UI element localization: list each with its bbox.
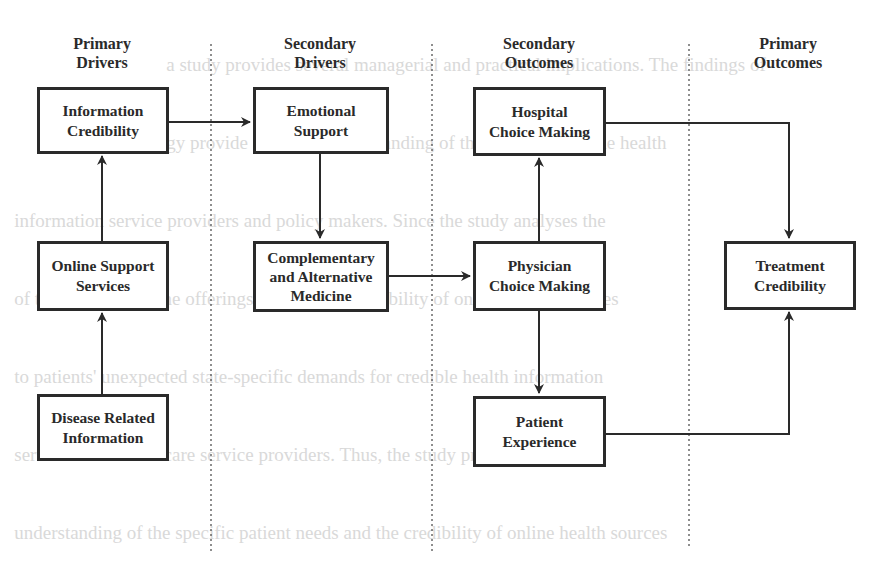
node-label: Information Credibility bbox=[63, 101, 144, 141]
header-primary-outcomes: Primary Outcomes bbox=[718, 34, 858, 72]
node-label: Online Support Services bbox=[52, 256, 155, 296]
node-physician-choice-making: Physician Choice Making bbox=[473, 241, 606, 311]
header-secondary-drivers: Secondary Drivers bbox=[250, 34, 390, 72]
node-complementary-alternative-medicine: Complementary and Alternative Medicine bbox=[253, 241, 389, 312]
node-label: Emotional Support bbox=[287, 101, 356, 141]
node-online-support-services: Online Support Services bbox=[37, 241, 169, 311]
header-secondary-outcomes: Secondary Outcomes bbox=[469, 34, 609, 72]
node-label: Disease Related Information bbox=[51, 408, 155, 448]
node-emotional-support: Emotional Support bbox=[253, 87, 389, 154]
node-label: Hospital Choice Making bbox=[489, 102, 590, 142]
node-label: Patient Experience bbox=[502, 412, 576, 452]
edge-hospital-to-treatment bbox=[605, 123, 789, 238]
node-information-credibility: Information Credibility bbox=[37, 87, 169, 154]
node-hospital-choice-making: Hospital Choice Making bbox=[473, 87, 606, 156]
edge-patient-experience-to-treatment bbox=[605, 312, 789, 434]
node-patient-experience: Patient Experience bbox=[473, 396, 606, 467]
node-treatment-credibility: Treatment Credibility bbox=[724, 241, 856, 310]
node-label: Physician Choice Making bbox=[489, 256, 590, 296]
node-label: Treatment Credibility bbox=[754, 256, 826, 296]
node-disease-related-information: Disease Related Information bbox=[37, 394, 169, 461]
header-primary-drivers: Primary Drivers bbox=[32, 34, 172, 72]
node-label: Complementary and Alternative Medicine bbox=[267, 248, 375, 305]
